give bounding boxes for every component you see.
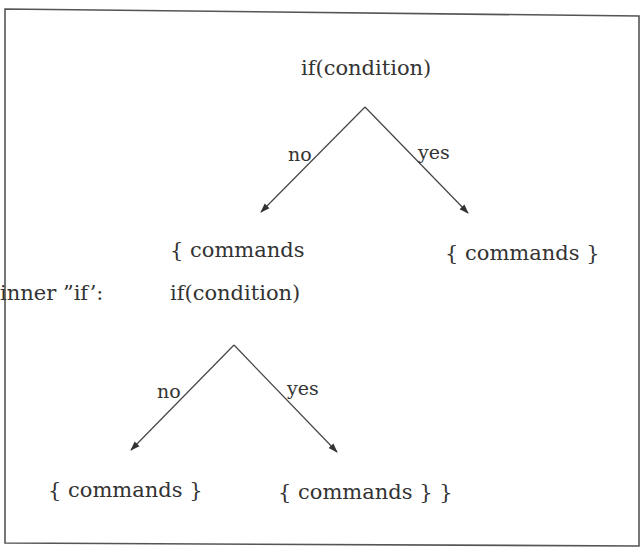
inner-no-branch-commands: { commands } (48, 480, 203, 501)
inner-no-arrow (131, 345, 234, 450)
inner-yes-branch-commands: { commands } } (278, 482, 453, 503)
inner-no-label: no (157, 382, 181, 401)
inner-yes-arrow (234, 345, 337, 452)
outer-no-branch-commands: { commands (170, 240, 305, 261)
diagram-frame (5, 9, 639, 546)
inner-condition-label: if(condition) (170, 283, 300, 304)
outer-yes-label: yes (418, 143, 450, 162)
inner-yes-label: yes (287, 379, 319, 398)
outer-condition-label: if(condition) (301, 58, 431, 79)
outer-yes-branch-commands: { commands } (445, 243, 600, 264)
outer-yes-arrow (365, 107, 468, 213)
outer-no-arrow (261, 107, 365, 212)
diagram-canvas (0, 0, 642, 550)
inner-if-caption: inner ”if’: (0, 283, 103, 304)
outer-no-label: no (288, 145, 312, 164)
